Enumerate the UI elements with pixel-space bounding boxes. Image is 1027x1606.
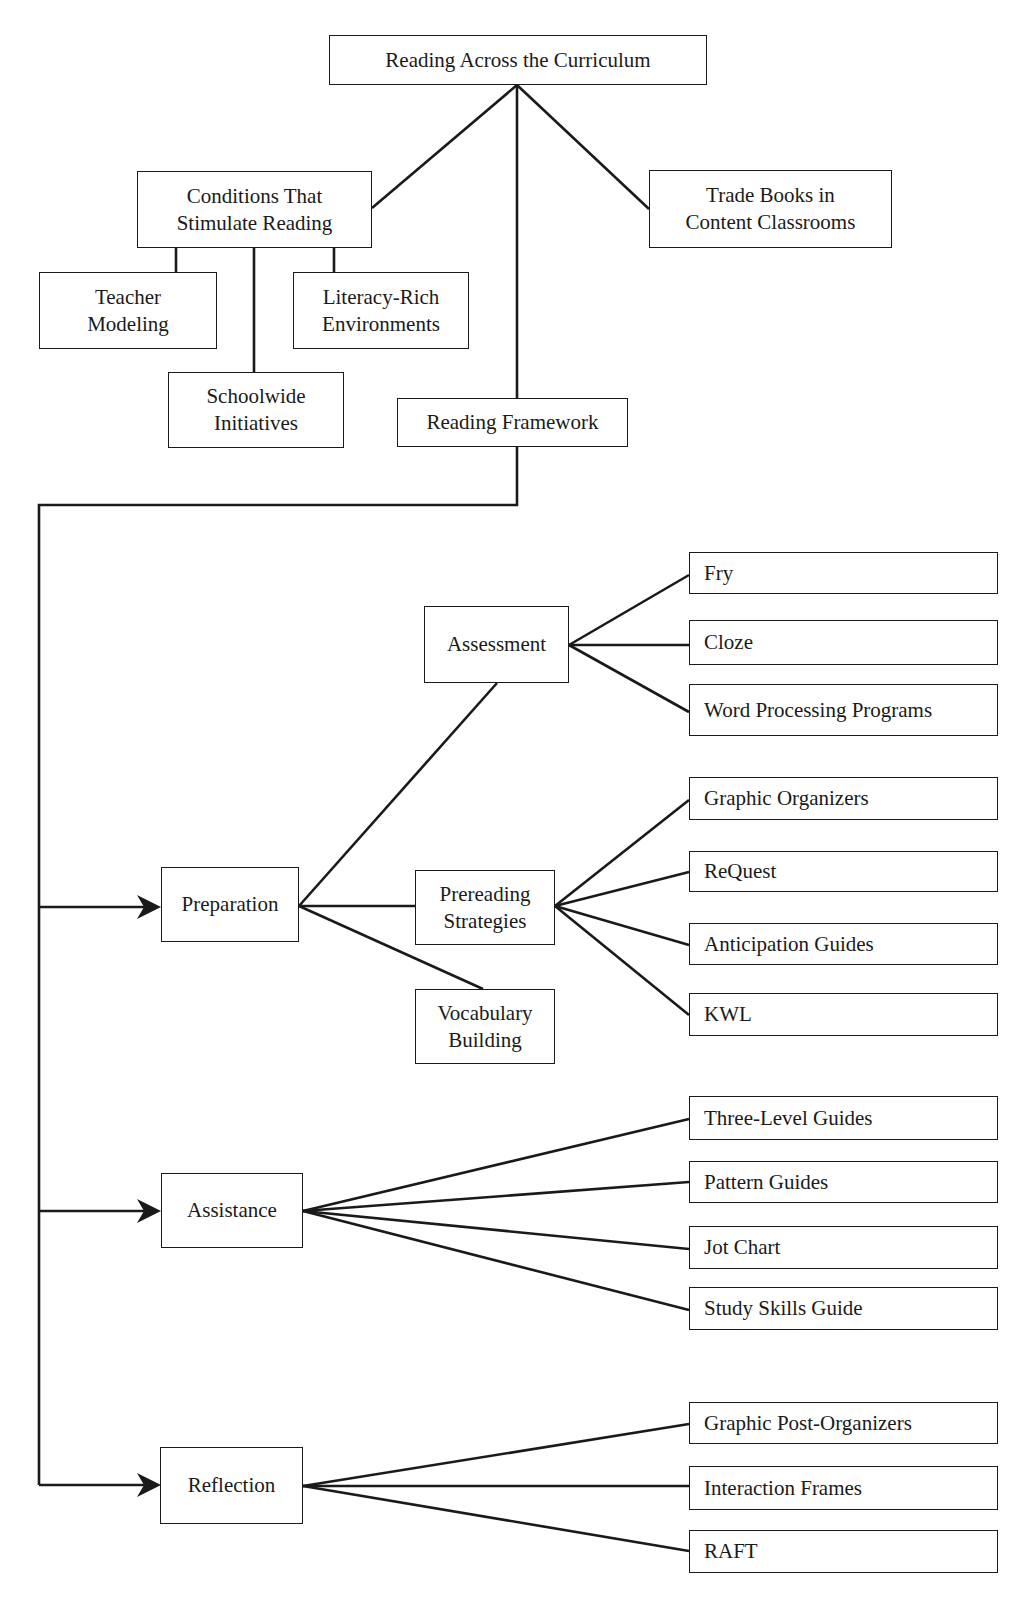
node-label: Reading Across the Curriculum	[385, 47, 650, 74]
node-label: Vocabulary Building	[437, 1000, 532, 1054]
edge-assessment-to-fry	[569, 575, 689, 645]
node-label: Literacy-Rich Environments	[322, 284, 440, 338]
node-root: Reading Across the Curriculum	[329, 35, 707, 85]
node-label: Pattern Guides	[704, 1169, 828, 1196]
node-graphic-organizers: Graphic Organizers	[689, 777, 998, 820]
node-label: Assistance	[187, 1197, 277, 1224]
node-fry: Fry	[689, 552, 998, 594]
node-interaction-frames: Interaction Frames	[689, 1466, 998, 1510]
node-assistance: Assistance	[161, 1173, 303, 1248]
node-cloze: Cloze	[689, 620, 998, 665]
node-label: Preparation	[182, 891, 279, 918]
edge-prereading-to-kwl	[555, 906, 689, 1015]
node-raft: RAFT	[689, 1530, 998, 1573]
node-schoolwide: Schoolwide Initiatives	[168, 372, 344, 448]
node-word-processing: Word Processing Programs	[689, 684, 998, 736]
node-label: Anticipation Guides	[704, 931, 874, 958]
node-label: Teacher Modeling	[87, 284, 169, 338]
node-vocabulary: Vocabulary Building	[415, 989, 555, 1064]
node-label: Graphic Organizers	[704, 785, 869, 812]
node-label: Interaction Frames	[704, 1475, 862, 1502]
node-label: Schoolwide Initiatives	[206, 383, 305, 437]
node-label: Cloze	[704, 629, 753, 656]
node-prereading: Prereading Strategies	[415, 870, 555, 945]
concept-map-diagram: Reading Across the CurriculumConditions …	[0, 0, 1027, 1606]
node-reflection: Reflection	[160, 1447, 303, 1524]
node-label: Three-Level Guides	[704, 1105, 873, 1132]
node-anticipation-guides: Anticipation Guides	[689, 923, 998, 965]
node-label: Trade Books in Content Classrooms	[686, 182, 856, 236]
node-label: Reflection	[188, 1472, 275, 1499]
node-study-skills-guide: Study Skills Guide	[689, 1287, 998, 1330]
node-kwl: KWL	[689, 993, 998, 1036]
node-request: ReQuest	[689, 851, 998, 892]
edge-reading_framework-to-phases	[39, 447, 517, 1485]
node-label: Prereading Strategies	[440, 881, 531, 935]
node-trade-books: Trade Books in Content Classrooms	[649, 170, 892, 248]
node-label: Conditions That Stimulate Reading	[177, 183, 333, 237]
node-label: Fry	[704, 560, 733, 587]
edge-prereading-to-anticipation_guides	[555, 906, 689, 945]
node-label: Word Processing Programs	[704, 697, 932, 724]
edge-reflection-to-graphic_post_organizers	[303, 1424, 689, 1486]
node-three-level-guides: Three-Level Guides	[689, 1096, 998, 1140]
node-label: KWL	[704, 1001, 752, 1028]
edge-root-to-trade_books	[517, 85, 649, 209]
node-jot-chart: Jot Chart	[689, 1226, 998, 1269]
node-label: ReQuest	[704, 858, 776, 885]
node-graphic-post-organizers: Graphic Post-Organizers	[689, 1402, 998, 1444]
node-assessment: Assessment	[424, 606, 569, 683]
edge-assistance-to-study_skills_guide	[303, 1211, 689, 1310]
edge-assistance-to-jot_chart	[303, 1211, 689, 1249]
edge-root-to-conditions	[372, 85, 517, 208]
node-label: Study Skills Guide	[704, 1295, 863, 1322]
node-label: Assessment	[447, 631, 546, 658]
node-label: Reading Framework	[426, 409, 598, 436]
node-label: RAFT	[704, 1538, 758, 1565]
node-preparation: Preparation	[161, 867, 299, 942]
edge-reflection-to-raft	[303, 1486, 689, 1551]
node-pattern-guides: Pattern Guides	[689, 1161, 998, 1203]
node-label: Graphic Post-Organizers	[704, 1410, 912, 1437]
edge-assessment-to-word_processing	[569, 645, 689, 712]
node-conditions: Conditions That Stimulate Reading	[137, 171, 372, 248]
node-literacy-rich: Literacy-Rich Environments	[293, 272, 469, 349]
node-label: Jot Chart	[704, 1234, 780, 1261]
node-reading-framework: Reading Framework	[397, 398, 628, 447]
node-teacher-modeling: Teacher Modeling	[39, 272, 217, 349]
